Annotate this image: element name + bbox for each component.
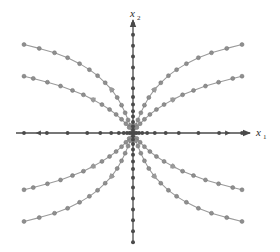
trajectory-marker: [184, 62, 188, 66]
trajectory-marker: [114, 150, 118, 154]
x-axis-marker-dot: [153, 131, 157, 135]
trajectory-marker: [59, 178, 63, 182]
trajectory-marker: [37, 46, 41, 50]
trajectory-curve: [24, 76, 131, 131]
x-axis-marker-dot: [109, 131, 113, 135]
trajectory-marker: [175, 68, 179, 72]
trajectory-marker: [166, 74, 170, 78]
trajectory-marker: [126, 144, 130, 148]
y-axis-label-subscript: 2: [137, 14, 141, 22]
trajectory-marker: [240, 188, 244, 192]
trajectory-marker: [45, 80, 49, 84]
y-axis-marker-dot: [131, 65, 135, 69]
trajectory-marker: [81, 93, 85, 97]
trajectory-marker: [22, 188, 26, 192]
trajectory-curve: [24, 45, 132, 130]
trajectory-marker: [138, 140, 142, 144]
trajectory-marker: [108, 108, 112, 112]
y-axis-marker-dot: [131, 76, 135, 80]
y-axis-marker-dot: [131, 33, 135, 37]
y-axis-marker-dot: [131, 218, 135, 222]
trajectory-marker: [100, 103, 104, 107]
trajectory-marker: [87, 194, 91, 198]
trajectory-marker: [139, 151, 143, 155]
x-axis-marker-dot: [117, 131, 121, 135]
trajectory-marker: [22, 219, 26, 223]
trajectory-traj-lower-right-inner: [135, 135, 244, 192]
trajectory-marker: [192, 174, 196, 178]
trajectory-marker: [147, 166, 151, 170]
trajectory-marker: [184, 200, 188, 204]
trajectory-marker: [120, 103, 124, 107]
trajectory-marker: [139, 111, 143, 115]
x-axis-arrowhead: [243, 130, 251, 136]
trajectory-marker: [148, 150, 152, 154]
y-axis-marker-dot: [131, 142, 135, 146]
trajectory-marker: [66, 206, 70, 210]
x-axis-marker-dot: [66, 131, 70, 135]
trajectory-marker: [108, 154, 112, 158]
axis-flow-arrowhead: [36, 130, 41, 135]
x-axis-marker-dot: [45, 131, 49, 135]
trajectory-marker: [217, 182, 221, 186]
y-axis-marker-dot: [131, 197, 135, 201]
trajectory-marker: [136, 118, 140, 122]
trajectory-marker: [53, 211, 57, 215]
trajectory-marker: [240, 74, 244, 78]
trajectory-marker: [231, 186, 235, 190]
trajectory-marker: [136, 144, 140, 148]
axis-flow-arrowhead: [225, 130, 230, 135]
trajectory-marker: [142, 103, 146, 107]
trajectory-marker: [120, 117, 124, 121]
trajectory-marker: [225, 46, 229, 50]
trajectory-curve: [135, 135, 242, 190]
y-axis-marker-dot: [131, 22, 135, 26]
x-axis-marker-dot: [240, 131, 244, 135]
trajectory-marker: [154, 154, 158, 158]
y-axis-marker-dot: [131, 115, 135, 119]
x-axis-marker-dot: [164, 131, 168, 135]
y-axis-marker-dot: [131, 207, 135, 211]
trajectory-marker: [209, 51, 213, 55]
trajectory-marker: [123, 151, 127, 155]
trajectory-marker: [100, 159, 104, 163]
trajectory-curve: [24, 136, 132, 221]
y-axis-marker-dot: [131, 44, 135, 48]
trajectory-marker: [181, 169, 185, 173]
trajectory-marker: [154, 108, 158, 112]
trajectory-marker: [162, 103, 166, 107]
trajectory-traj-lower-left-inner: [22, 135, 131, 192]
phase-portrait-svg: x 1 x 2: [0, 0, 280, 252]
x-axis-marker-dot: [22, 131, 26, 135]
trajectory-curve: [134, 136, 242, 221]
y-axis-marker-dot: [131, 109, 135, 113]
trajectory-marker: [225, 216, 229, 220]
x-axis-marker-dot: [197, 131, 201, 135]
trajectory-marker: [124, 122, 128, 126]
y-axis-marker-dot: [131, 86, 135, 90]
trajectory-marker: [175, 194, 179, 198]
trajectory-marker: [159, 181, 163, 185]
trajectory-marker: [203, 178, 207, 182]
y-axis-marker-dot: [131, 167, 135, 171]
trajectory-curve: [134, 45, 242, 130]
trajectory-marker: [126, 118, 130, 122]
trajectory-marker: [103, 81, 107, 85]
y-axis-label: x: [129, 7, 135, 19]
trajectory-marker: [81, 169, 85, 173]
trajectory-marker: [192, 88, 196, 92]
trajectory-marker: [114, 112, 118, 116]
trajectory-marker: [22, 43, 26, 47]
x-axis-marker-dot: [122, 131, 126, 135]
y-axis-marker-dot: [131, 103, 135, 107]
trajectory-traj-upper-left-inner: [22, 74, 131, 131]
trajectory-marker: [45, 182, 49, 186]
trajectory-marker: [53, 51, 57, 55]
trajectory-marker: [96, 188, 100, 192]
x-axis-marker-dot: [177, 131, 181, 135]
trajectory-marker: [142, 145, 146, 149]
x-axis-marker-dot: [98, 131, 102, 135]
y-axis-marker-dot: [131, 159, 135, 163]
trajectory-marker: [240, 219, 244, 223]
trajectory-marker: [120, 159, 124, 163]
